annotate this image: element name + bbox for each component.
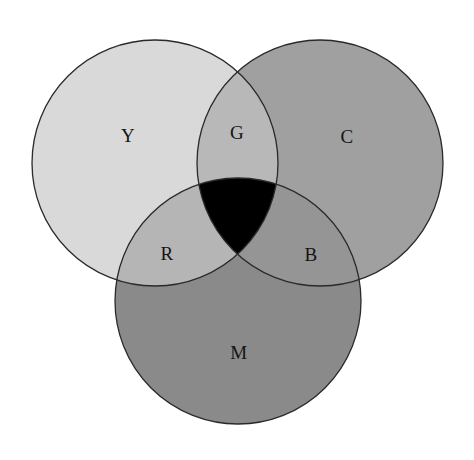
- region-label-c: C: [340, 126, 353, 147]
- region-label-y: Y: [121, 125, 135, 146]
- region-label-b: B: [304, 244, 317, 265]
- venn-diagram-figure: Y C M G R B: [0, 0, 474, 460]
- region-label-g: G: [230, 122, 244, 143]
- region-label-r: R: [160, 243, 173, 264]
- region-label-m: M: [230, 342, 247, 363]
- venn-diagram-canvas: Y C M G R B: [0, 0, 474, 460]
